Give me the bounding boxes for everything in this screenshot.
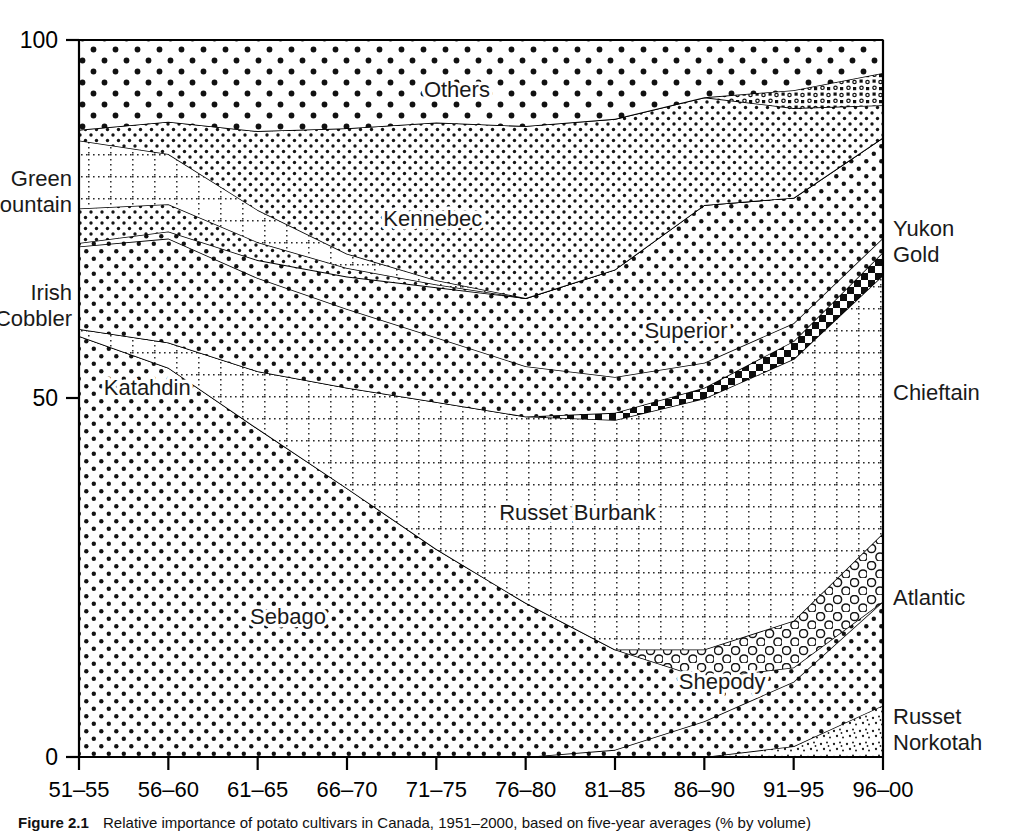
label-irish-cobbler-line1: Irish bbox=[30, 280, 72, 305]
x-tick-label-76–80: 76–80 bbox=[495, 777, 556, 802]
label-chieftain: Chieftain bbox=[893, 380, 980, 405]
inline-label-katahdin: Katahdin bbox=[104, 375, 191, 400]
y-axis-label-100: 100 bbox=[20, 27, 58, 53]
x-tick-marks-group bbox=[79, 757, 883, 770]
figure-caption-text: Relative importance of potato cultivars … bbox=[103, 814, 811, 831]
x-tick-label-61–65: 61–65 bbox=[227, 777, 288, 802]
x-tick-label-86–90: 86–90 bbox=[674, 777, 735, 802]
inline-label-superior: Superior bbox=[644, 318, 727, 343]
x-tick-label-51–55: 51–55 bbox=[48, 777, 109, 802]
y-axis-label-50: 50 bbox=[32, 385, 58, 411]
x-axis-tick-labels: 51–5556–6061–6566–7071–7576–8081–8586–90… bbox=[48, 777, 913, 802]
x-tick-label-91–95: 91–95 bbox=[763, 777, 824, 802]
inline-label-russet-burbank: Russet Burbank bbox=[499, 500, 657, 525]
area-bands-group bbox=[79, 40, 883, 757]
figure-caption-label: Figure 2.1 bbox=[18, 814, 89, 831]
right-outside-labels: Yukon Gold Chieftain Atlantic Russet Nor… bbox=[893, 216, 982, 755]
inline-label-others: Others bbox=[424, 77, 490, 102]
label-yukon-gold-line1: Yukon bbox=[893, 216, 954, 241]
left-outside-labels: Green Mountain Irish Cobbler bbox=[0, 166, 72, 331]
x-tick-label-71–75: 71–75 bbox=[406, 777, 467, 802]
inline-label-sebago: Sebago bbox=[250, 604, 326, 629]
label-green-mountain-line1: Green bbox=[11, 166, 72, 191]
label-atlantic: Atlantic bbox=[893, 585, 965, 610]
label-russet-norkotah-line1: Russet bbox=[893, 704, 961, 729]
x-tick-label-66–70: 66–70 bbox=[316, 777, 377, 802]
x-tick-label-81–85: 81–85 bbox=[584, 777, 645, 802]
figure-caption: Figure 2.1 Relative importance of potato… bbox=[18, 814, 811, 831]
inline-label-kennebec: Kennebec bbox=[383, 206, 482, 231]
y-axis-label-0: 0 bbox=[45, 744, 58, 770]
figure-container: 100 50 0 51–5556–6061–6566–7071–7576–808… bbox=[0, 0, 1010, 832]
label-irish-cobbler-line2: Cobbler bbox=[0, 306, 72, 331]
label-green-mountain-line2: Mountain bbox=[0, 192, 72, 217]
stacked-area-chart: 100 50 0 51–5556–6061–6566–7071–7576–808… bbox=[0, 0, 1010, 832]
x-tick-label-56–60: 56–60 bbox=[138, 777, 199, 802]
label-yukon-gold-line2: Gold bbox=[893, 242, 939, 267]
x-tick-label-96–00: 96–00 bbox=[852, 777, 913, 802]
inline-label-shepody: Shepody bbox=[679, 669, 766, 694]
label-russet-norkotah-line2: Norkotah bbox=[893, 730, 982, 755]
